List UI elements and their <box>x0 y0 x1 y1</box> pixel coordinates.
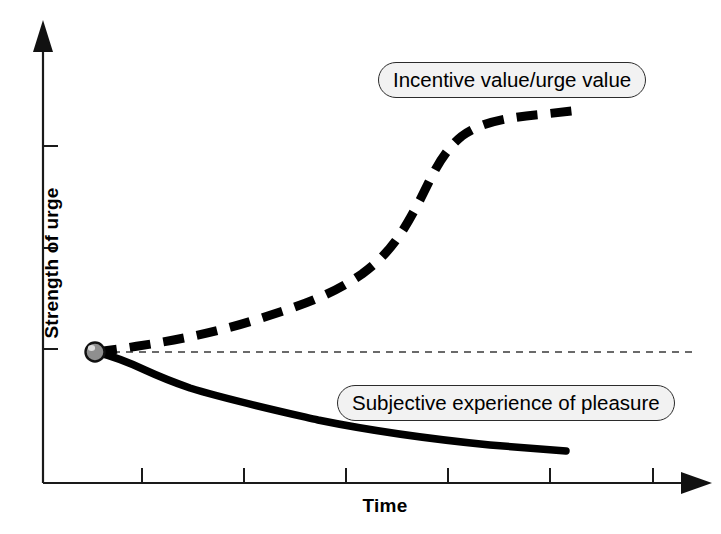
origin-sphere-marker <box>86 343 105 362</box>
callout-subjective-pleasure: Subjective experience of pleasure <box>337 385 675 421</box>
x-axis <box>43 468 712 494</box>
y-axis-arrowhead-icon <box>33 20 53 52</box>
x-axis-title: Time <box>330 495 440 517</box>
series-incentive-value-line <box>96 111 572 352</box>
chart-figure: Strength of urge Time Incentive value/ur… <box>0 0 721 534</box>
callout-incentive-value: Incentive value/urge value <box>378 62 646 98</box>
x-axis-arrowhead-icon <box>681 472 712 494</box>
y-axis-title: Strength of urge <box>41 163 63 363</box>
